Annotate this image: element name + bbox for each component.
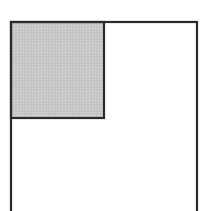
diagram-canvas xyxy=(0,0,213,211)
shaded-square xyxy=(11,22,104,118)
